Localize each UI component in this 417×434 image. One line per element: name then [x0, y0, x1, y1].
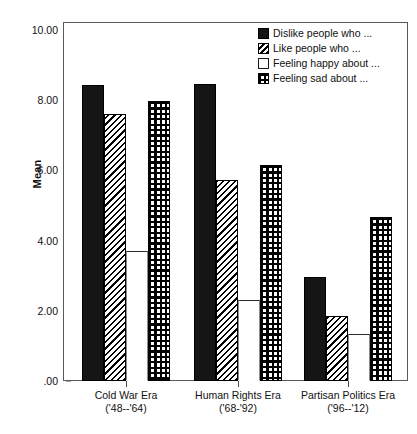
bar — [126, 251, 148, 381]
legend-item: Feeling sad about ... — [258, 71, 410, 85]
checkerboard-swatch — [258, 73, 269, 84]
y-tick-label: 8.00 — [10, 94, 58, 106]
bar — [194, 84, 216, 381]
legend-label: Like people who ... — [273, 42, 361, 54]
bar — [148, 101, 170, 381]
x-tick-mark — [348, 381, 349, 387]
bar — [238, 300, 260, 381]
y-tick-label: 10.00 — [10, 24, 58, 36]
x-category-line1: Partisan Politics Era — [301, 389, 395, 401]
x-category-label: Cold War Era('48--'64) — [95, 389, 158, 415]
legend-item: Dislike people who ... — [258, 26, 410, 40]
x-category-line1: Cold War Era — [95, 389, 158, 401]
bar — [216, 180, 238, 381]
x-category-line2: ('48--'64) — [95, 402, 158, 415]
legend-item: Feeling happy about ... — [258, 56, 410, 70]
diagonal-hatch-swatch — [258, 43, 269, 54]
y-tick-label: 4.00 — [10, 235, 58, 247]
legend-label: Feeling happy about ... — [273, 57, 380, 69]
bar — [370, 217, 392, 381]
bar — [104, 114, 126, 381]
x-category-line1: Human Rights Era — [195, 389, 281, 401]
chart-legend: Dislike people who ...Like people who ..… — [258, 26, 410, 86]
x-category-line2: ('96--'12) — [301, 402, 395, 415]
legend-label: Feeling sad about ... — [273, 72, 368, 84]
x-category-label: Partisan Politics Era('96--'12) — [301, 389, 395, 415]
x-category-line2: ('68-'92) — [195, 402, 281, 415]
y-tick-label: 6.00 — [10, 164, 58, 176]
bar — [348, 334, 370, 381]
bar — [326, 316, 348, 381]
bar-chart: Mean 10.008.006.004.002.00.00 Cold War E… — [0, 0, 417, 434]
y-axis-ticks: 10.008.006.004.002.00.00 — [8, 0, 58, 434]
y-tick-label: 2.00 — [10, 305, 58, 317]
legend-item: Like people who ... — [258, 41, 410, 55]
white-swatch — [258, 58, 269, 69]
y-tick-label: .00 — [10, 375, 58, 387]
x-tick-mark — [126, 381, 127, 387]
x-tick-mark — [238, 381, 239, 387]
bar — [304, 277, 326, 381]
x-category-label: Human Rights Era('68-'92) — [195, 389, 281, 415]
bar — [82, 85, 104, 381]
bar — [260, 165, 282, 381]
solid-black-swatch — [258, 28, 269, 39]
legend-label: Dislike people who ... — [273, 27, 372, 39]
